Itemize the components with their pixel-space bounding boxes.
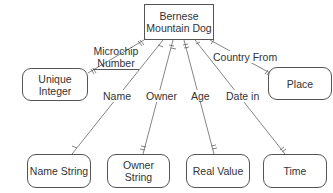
node-label: Time bbox=[284, 165, 307, 177]
relation-label-age: Age bbox=[191, 90, 210, 102]
relation-label-country-from: Country From bbox=[213, 51, 277, 63]
node-owner-string[interactable]: Owner String bbox=[107, 154, 170, 188]
relation-label-microchip-number: Microchip Number bbox=[93, 45, 139, 70]
node-label-line2: Integer bbox=[39, 85, 72, 97]
node-label: Real Value bbox=[193, 165, 244, 177]
relation-label-line1: Microchip bbox=[93, 45, 139, 57]
relation-label-owner: Owner bbox=[146, 90, 177, 102]
relation-label-date-in: Date in bbox=[226, 90, 259, 102]
node-place[interactable]: Place bbox=[268, 67, 332, 100]
node-label: Name String bbox=[30, 165, 88, 177]
node-real-value[interactable]: Real Value bbox=[186, 154, 250, 188]
entity-bernese-mountain-dog[interactable]: Bernese Mountain Dog bbox=[144, 4, 214, 40]
node-label: Place bbox=[287, 78, 313, 90]
entity-label-line2: Mountain Dog bbox=[146, 22, 211, 34]
node-name-string[interactable]: Name String bbox=[27, 154, 91, 188]
node-label-line1: Unique bbox=[38, 73, 71, 85]
entity-label-line1: Bernese bbox=[159, 10, 198, 22]
relation-label-line2: Number bbox=[93, 57, 139, 70]
node-time[interactable]: Time bbox=[263, 154, 327, 188]
node-label: Owner String bbox=[108, 159, 169, 183]
relation-label-name: Name bbox=[103, 90, 131, 102]
node-unique-integer[interactable]: Unique Integer bbox=[22, 68, 88, 101]
